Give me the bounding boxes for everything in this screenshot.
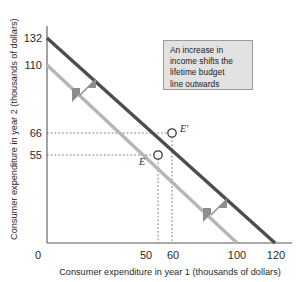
y-tick-label-66: 66 — [30, 127, 42, 139]
annotation-shift-note: An increase in income shifts the lifetim… — [163, 40, 253, 90]
point-marker-E-prime — [168, 129, 176, 137]
shift-arrow-lower-icon — [203, 198, 227, 222]
annotation-line-3: lifetime budget — [170, 67, 246, 78]
x-tick-label-50: 50 — [140, 249, 152, 261]
x-tick-label-60: 60 — [167, 249, 179, 261]
x-tick-label-0: 0 — [35, 249, 41, 261]
chart-figure: E' E 132 110 66 55 0 50 60 100 120 Consu… — [0, 0, 298, 282]
point-label-E-prime: E' — [179, 123, 189, 134]
x-tick-label-120: 120 — [267, 249, 285, 261]
y-axis-title: Consumer expenditure in year 2 (thousand… — [9, 18, 19, 240]
x-tick-label-100: 100 — [228, 249, 246, 261]
y-tick-label-110: 110 — [24, 59, 42, 71]
budget-line-chart: E' E 132 110 66 55 0 50 60 100 120 Consu… — [0, 0, 298, 282]
annotation-line-2: income shifts the — [170, 56, 246, 67]
annotation-line-1: An increase in — [170, 45, 246, 56]
x-axis-title: Consumer expenditure in year 1 (thousand… — [59, 267, 281, 277]
point-marker-E — [154, 151, 162, 159]
y-tick-label-132: 132 — [24, 32, 42, 44]
annotation-line-4: line outwards — [170, 79, 246, 90]
point-label-E: E — [138, 156, 145, 167]
y-tick-label-55: 55 — [30, 149, 42, 161]
